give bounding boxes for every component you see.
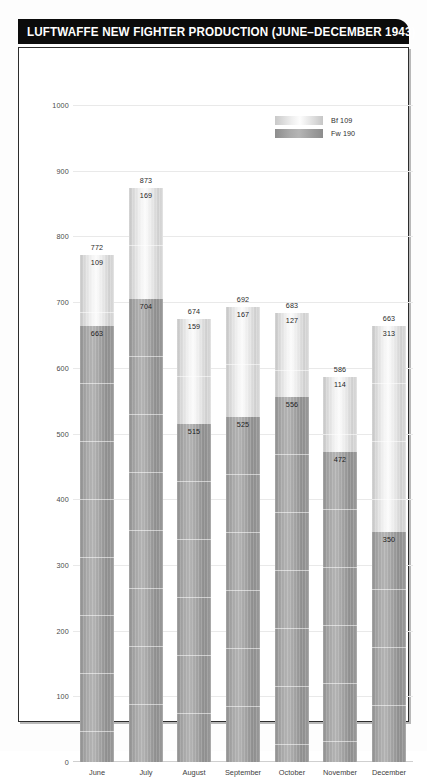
x-axis-tick-label: September (218, 768, 268, 777)
bar-total-label: 772 (80, 243, 114, 252)
bar-segment-bf109[interactable]: 313 (372, 326, 406, 532)
bar-stack[interactable]: 127556 (275, 313, 309, 762)
bar-stack[interactable]: 169704 (129, 188, 163, 762)
bar-value-label-fw190: 704 (129, 302, 163, 311)
x-axis-tick-label: December (364, 768, 414, 777)
bar-value-label-bf109: 313 (372, 329, 406, 338)
bar-segment-bf109[interactable]: 127 (275, 313, 309, 396)
y-axis-tick-label: 500 (40, 429, 69, 438)
bar-segment-fw190[interactable]: 525 (226, 417, 260, 762)
bar-value-label-bf109: 167 (226, 310, 260, 319)
y-axis-tick-label: 900 (40, 166, 69, 175)
bar-total-label: 663 (372, 314, 406, 323)
bar-value-label-fw190: 525 (226, 420, 260, 429)
bar-stack[interactable]: 109663 (80, 255, 114, 762)
bar-segment-bf109[interactable]: 114 (323, 377, 357, 452)
bar-group[interactable]: 169704873July (129, 105, 163, 762)
bar-segment-bf109[interactable]: 169 (129, 188, 163, 299)
plot-area: 01002003004005006007008009001000 1096637… (73, 105, 413, 762)
bar-value-label-bf109: 127 (275, 316, 309, 325)
y-axis-tick-label: 400 (40, 495, 69, 504)
bar-stack[interactable]: 313350 (372, 326, 406, 762)
bar-segment-fw190[interactable]: 704 (129, 299, 163, 762)
bar-total-label: 674 (177, 307, 211, 316)
bar-value-label-fw190: 515 (177, 427, 211, 436)
bar-value-label-fw190: 556 (275, 400, 309, 409)
bar-value-label-fw190: 663 (80, 329, 114, 338)
y-axis-tick-label: 600 (40, 363, 69, 372)
bar-group[interactable]: 167525692September (226, 105, 260, 762)
bar-value-label-bf109: 169 (129, 191, 163, 200)
bar-segment-bf109[interactable]: 109 (80, 255, 114, 327)
page-title: LUFTWAFFE NEW FIGHTER PRODUCTION (JUNE–D… (27, 25, 416, 39)
bar-value-label-bf109: 109 (80, 258, 114, 267)
bar-stack[interactable]: 114472 (323, 377, 357, 762)
bar-segment-fw190[interactable]: 472 (323, 452, 357, 762)
chart-title-bar: LUFTWAFFE NEW FIGHTER PRODUCTION (JUNE–D… (18, 19, 409, 44)
y-axis-tick-label: 1000 (40, 101, 69, 110)
bar-value-label-fw190: 350 (372, 535, 406, 544)
x-axis-tick-label: November (315, 768, 365, 777)
bar-stack[interactable]: 167525 (226, 307, 260, 762)
x-axis-tick-label: August (169, 768, 219, 777)
bar-segment-fw190[interactable]: 663 (80, 326, 114, 762)
y-axis-tick-label: 100 (40, 692, 69, 701)
bar-value-label-fw190: 472 (323, 455, 357, 464)
bar-group[interactable]: 159515674August (177, 105, 211, 762)
bar-segment-fw190[interactable]: 515 (177, 424, 211, 762)
bar-group[interactable]: 127556683October (275, 105, 309, 762)
x-axis-tick-label: June (72, 768, 122, 777)
bar-total-label: 873 (129, 176, 163, 185)
y-axis-tick-label: 0 (40, 758, 69, 767)
bar-total-label: 586 (323, 365, 357, 374)
x-axis-tick-label: October (267, 768, 317, 777)
y-axis-tick-label: 300 (40, 560, 69, 569)
bar-total-label: 692 (226, 295, 260, 304)
bar-segment-fw190[interactable]: 350 (372, 532, 406, 762)
bar-stack[interactable]: 159515 (177, 319, 211, 762)
bar-value-label-bf109: 159 (177, 322, 211, 331)
bar-segment-bf109[interactable]: 159 (177, 319, 211, 423)
bar-segment-bf109[interactable]: 167 (226, 307, 260, 417)
bar-series: 109663772June169704873July159515674Augus… (73, 105, 413, 762)
bar-value-label-bf109: 114 (323, 380, 357, 389)
y-axis-tick-label: 700 (40, 298, 69, 307)
bar-group[interactable]: 109663772June (80, 105, 114, 762)
bar-segment-fw190[interactable]: 556 (275, 397, 309, 762)
bar-total-label: 683 (275, 301, 309, 310)
chart-frame: Bf 109 Fw 190 01002003004005006007008009… (18, 47, 409, 722)
bar-group[interactable]: 114472586November (323, 105, 357, 762)
y-axis-tick-label: 800 (40, 232, 69, 241)
bar-group[interactable]: 313350663December (372, 105, 406, 762)
x-axis-tick-label: July (121, 768, 171, 777)
y-axis-tick-label: 200 (40, 626, 69, 635)
